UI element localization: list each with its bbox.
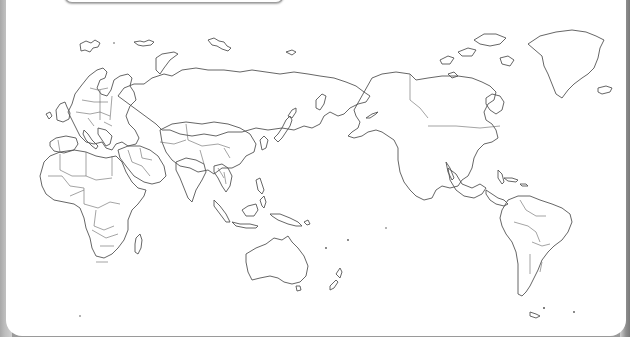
greenland	[528, 30, 612, 98]
southeast-asia-islands	[214, 178, 310, 228]
map-card: World map outline (Pacific-centered)	[6, 0, 626, 336]
new-zealand	[325, 239, 349, 290]
russia	[118, 52, 370, 136]
pacific-islands	[79, 112, 387, 317]
arctic-islands	[80, 38, 296, 55]
africa	[40, 150, 146, 262]
north-america	[348, 34, 528, 200]
asia	[160, 108, 296, 202]
south-america	[486, 190, 575, 318]
europe	[46, 68, 139, 153]
world-map[interactable]	[6, 0, 626, 336]
middle-east	[118, 146, 166, 184]
australia	[246, 236, 308, 291]
